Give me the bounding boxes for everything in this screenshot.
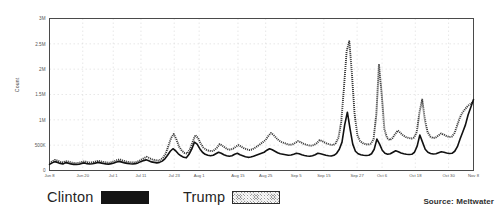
legend-item-clinton: Clinton bbox=[47, 189, 149, 205]
legend-label-trump: Trump bbox=[183, 189, 225, 205]
legend-swatch-trump bbox=[232, 191, 280, 204]
legend-item-trump: Trump bbox=[183, 189, 280, 205]
y-tick-label: 500K bbox=[35, 143, 47, 148]
x-tick-label: Jun 8 bbox=[44, 173, 55, 178]
y-axis-tick-labels: 3M2.5M2M1.5M1M500K0 bbox=[35, 16, 47, 173]
x-tick-label: Jun 20 bbox=[76, 173, 89, 178]
y-tick-label: 1.5M bbox=[35, 92, 45, 97]
x-tick-label: Aug 15 bbox=[231, 173, 245, 178]
x-tick-label: Jul 1 bbox=[109, 173, 119, 178]
x-tick-label: Nov 8 bbox=[468, 173, 480, 178]
x-tick-label: Oct 30 bbox=[442, 173, 455, 178]
x-tick-label: Oct 18 bbox=[409, 173, 422, 178]
y-tick-label: 2.5M bbox=[35, 42, 45, 47]
y-tick-label: 1M bbox=[39, 118, 46, 123]
line-chart-plot: 3M2.5M2M1.5M1M500K0 Jun 8Jun 20Jul 1Jul … bbox=[0, 0, 502, 190]
x-axis-tick-labels: Jun 8Jun 20Jul 1Jul 11Jul 23Aug 1Aug 15A… bbox=[44, 173, 479, 178]
y-tick-label: 2M bbox=[39, 67, 46, 72]
x-tick-label: Aug 25 bbox=[259, 173, 273, 178]
x-tick-label: Aug 1 bbox=[194, 173, 206, 178]
x-tick-label: Jul 11 bbox=[136, 173, 148, 178]
x-tick-label: Sep 15 bbox=[317, 173, 331, 178]
y-axis-title: Count bbox=[14, 55, 20, 115]
x-tick-label: Sep 5 bbox=[291, 173, 303, 178]
source-note: Source: Meltwater bbox=[423, 197, 494, 206]
legend-swatch-clinton bbox=[101, 191, 149, 204]
x-tick-label: Sep 27 bbox=[350, 173, 364, 178]
x-tick-label: Oct 6 bbox=[377, 173, 388, 178]
chart-legend: Clinton Trump Source: Meltwater bbox=[0, 188, 502, 222]
chart-figure: 3M2.5M2M1.5M1M500K0 Jun 8Jun 20Jul 1Jul … bbox=[0, 0, 502, 222]
legend-label-clinton: Clinton bbox=[47, 189, 94, 205]
y-tick-label: 3M bbox=[39, 16, 46, 21]
x-tick-label: Jul 23 bbox=[169, 173, 181, 178]
grid-lines bbox=[50, 19, 474, 171]
